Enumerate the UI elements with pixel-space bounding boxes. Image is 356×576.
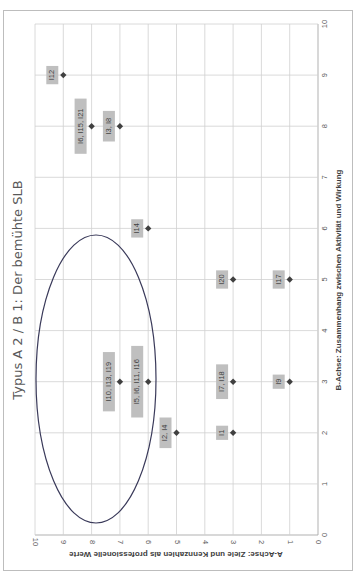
a-tick-label: 9 — [59, 540, 68, 544]
a-tick-label: 1 — [286, 540, 295, 544]
b-tick-label: 0 — [320, 533, 329, 537]
data-label: I7, I18 — [217, 371, 226, 392]
data-label: I9 — [274, 379, 283, 385]
data-label: I12 — [47, 70, 56, 80]
b-tick-label: 5 — [320, 277, 329, 281]
a-tick-label: 10 — [31, 538, 40, 546]
b-tick-label: 10 — [320, 20, 329, 28]
b-tick-label: 1 — [320, 482, 329, 486]
b-tick-label: 4 — [320, 329, 329, 333]
b-tick-label: 9 — [320, 73, 329, 77]
b-tick-label: 3 — [320, 380, 329, 384]
a-tick-label: 2 — [257, 540, 266, 544]
data-label: I6, I15, I21 — [76, 108, 85, 143]
b-tick-label: 6 — [320, 226, 329, 230]
a-tick-label: 4 — [201, 540, 210, 544]
data-label: I20 — [217, 274, 226, 284]
a-axis-title: A-Achse: Ziele und Kennzahlen als profes… — [69, 550, 283, 559]
a-tick-label: 5 — [173, 540, 182, 544]
data-label: I5, I6, I11, I16 — [132, 359, 141, 404]
a-tick-label: 8 — [88, 540, 97, 544]
data-label: I10, I13, I19 — [104, 362, 113, 402]
chart-title: Typus A 2 / B 1: Der bemühte SLB — [10, 180, 25, 400]
b-tick-label: 8 — [320, 124, 329, 128]
b-tick-label: 2 — [320, 431, 329, 435]
a-tick-label: 6 — [144, 540, 153, 544]
a-tick-label: 3 — [229, 540, 238, 544]
scatter-chart: 012345678910012345678910 I12I6, I15, I21… — [0, 0, 356, 576]
b-tick-label: 7 — [320, 175, 329, 179]
data-label: I1 — [217, 430, 226, 436]
data-label: I2, I4 — [160, 424, 169, 441]
b-axis-title: B-Achse: Zusammenhang zwischen Aktivität… — [334, 169, 343, 390]
a-tick-label: 0 — [314, 540, 323, 544]
a-tick-label: 7 — [116, 540, 125, 544]
data-label: I14 — [132, 223, 141, 233]
data-label: I17 — [274, 274, 283, 284]
data-label: I3, I8 — [104, 118, 113, 135]
